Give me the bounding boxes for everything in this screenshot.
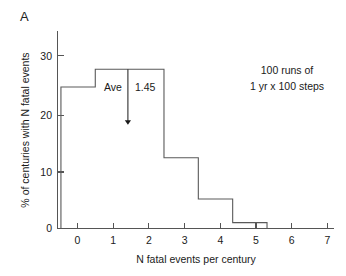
y-axis-tick-labels: 30 20 10 0	[40, 50, 52, 235]
x-tick-label: 1	[110, 234, 116, 246]
y-axis-title: % of centuries with N fatal events	[19, 52, 31, 207]
average-arrow	[125, 69, 131, 124]
x-tick-label: 6	[289, 234, 295, 246]
x-tick-label: 0	[75, 234, 81, 246]
x-tick-label: 7	[324, 234, 330, 246]
x-tick-label: 3	[182, 234, 188, 246]
y-tick-label: 20	[40, 109, 52, 121]
y-tick-label: 10	[40, 166, 52, 178]
average-value-label: 1.45	[135, 81, 156, 93]
run-note-line-2: 1 yr x 100 steps	[250, 80, 324, 92]
y-tick-label: 30	[40, 50, 52, 62]
run-note-line-1: 100 runs of	[261, 64, 314, 76]
x-axis-tick-labels: 0 1 2 3 4 5 6 7	[75, 234, 331, 246]
y-tick-label: 0	[46, 222, 52, 234]
histogram-chart: 30 20 10 0 0 1 2 3 4 5 6 7	[0, 0, 346, 276]
x-tick-label: 4	[217, 234, 223, 246]
x-axis-title: N fatal events per century	[136, 253, 256, 265]
x-tick-label: 5	[253, 234, 259, 246]
run-note: 100 runs of 1 yr x 100 steps	[250, 64, 324, 92]
histogram-outline	[61, 69, 267, 228]
figure-panel-a: A 30 20 10 0	[0, 0, 346, 276]
x-tick-label: 2	[146, 234, 152, 246]
x-axis-ticks	[78, 223, 328, 229]
average-label: Ave	[104, 81, 122, 93]
